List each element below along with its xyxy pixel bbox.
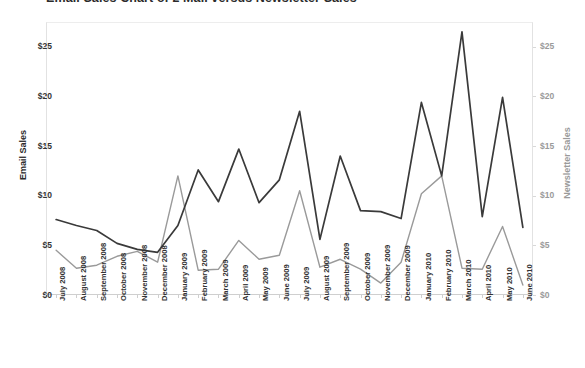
y-axis-left-tick-label: $5 — [12, 241, 52, 250]
y-axis-left-tick-mark — [43, 196, 46, 197]
y-axis-left-tick-mark — [43, 47, 46, 48]
x-axis-tick-mark — [523, 295, 524, 298]
x-axis-tick-label: April 2010 — [485, 265, 493, 301]
x-axis-tick-label: September 2009 — [343, 243, 351, 301]
x-axis-tick-label: December 2008 — [161, 245, 169, 301]
y-axis-right-tick-mark — [533, 146, 536, 147]
y-axis-left-tick-label: $20 — [12, 92, 52, 101]
x-axis-tick-label: January 2009 — [181, 253, 189, 301]
x-axis-tick-mark — [320, 295, 321, 298]
x-axis-tick-mark — [381, 295, 382, 298]
x-axis-tick-label: June 2009 — [283, 264, 291, 301]
y-axis-left-tick-mark — [43, 295, 46, 296]
y-axis-right-tick-mark — [533, 96, 536, 97]
x-axis-tick-mark — [503, 295, 504, 298]
y-axis-right-tick-label: $20 — [540, 92, 580, 101]
y-axis-left-tick-label: $0 — [12, 291, 52, 300]
y-axis-right-tick-label: $15 — [540, 142, 580, 151]
x-axis-tick-mark — [56, 295, 57, 298]
x-axis-tick-mark — [178, 295, 179, 298]
x-axis-tick-mark — [218, 295, 219, 298]
x-axis-tick-mark — [300, 295, 301, 298]
x-axis-tick-mark — [361, 295, 362, 298]
x-axis-tick-label: November 2008 — [141, 245, 149, 301]
x-axis-tick-label: December 2009 — [404, 245, 412, 301]
x-axis-tick-label: July 2008 — [59, 267, 67, 301]
x-axis-tick-label: February 2009 — [201, 250, 209, 302]
x-axis-tick-mark — [401, 295, 402, 298]
chart-title: Email Sales Chart of 2 Mail versus Newsl… — [46, 0, 566, 3]
x-axis-tick-mark — [239, 295, 240, 298]
x-axis-tick-mark — [421, 295, 422, 298]
y-axis-right-tick-label: $5 — [540, 241, 580, 250]
x-axis-tick-mark — [97, 295, 98, 298]
y-axis-right-tick-label: $0 — [540, 291, 580, 300]
x-axis-tick-label: February 2010 — [445, 250, 453, 302]
x-axis-tick-mark — [158, 295, 159, 298]
x-axis-tick-mark — [279, 295, 280, 298]
x-axis-tick-label: September 2008 — [100, 243, 108, 301]
x-axis-tick-label: August 2009 — [323, 256, 331, 301]
x-axis-tick-mark — [259, 295, 260, 298]
x-axis-tick-label: November 2009 — [384, 245, 392, 301]
y-axis-right-tick-mark — [533, 245, 536, 246]
chart-container: Email Sales Chart of 2 Mail versus Newsl… — [0, 0, 585, 368]
x-axis-tick-mark — [137, 295, 138, 298]
x-axis-tick-mark — [462, 295, 463, 298]
x-axis-tick-label: June 2010 — [526, 264, 534, 301]
x-axis-tick-label: March 2009 — [222, 260, 230, 301]
y-axis-right-tick-mark — [533, 47, 536, 48]
x-axis-tick-label: April 2009 — [242, 265, 250, 301]
x-axis-tick-mark — [76, 295, 77, 298]
x-axis-tick-label: August 2008 — [80, 256, 88, 301]
x-axis-tick-label: May 2009 — [262, 267, 270, 301]
x-axis-tick-mark — [442, 295, 443, 298]
y-axis-left-tick-mark — [43, 245, 46, 246]
y-axis-left-tick-mark — [43, 96, 46, 97]
y-axis-left-tick-mark — [43, 146, 46, 147]
x-axis-tick-label: October 2009 — [364, 253, 372, 301]
x-axis-tick-label: October 2008 — [120, 253, 128, 301]
x-axis-tick-label: March 2010 — [465, 260, 473, 301]
y-axis-right-tick-label: $25 — [540, 42, 580, 51]
y-axis-left-title: Email Sales — [18, 115, 28, 195]
y-axis-right-tick-label: $10 — [540, 191, 580, 200]
line-email-sales — [56, 32, 523, 252]
x-axis-tick-label: July 2009 — [303, 267, 311, 301]
y-axis-right-tick-mark — [533, 196, 536, 197]
x-axis-tick-label: May 2010 — [506, 267, 514, 301]
y-axis-left-tick-label: $10 — [12, 191, 52, 200]
x-axis-tick-mark — [117, 295, 118, 298]
y-axis-left-tick-label: $15 — [12, 142, 52, 151]
y-axis-left-tick-label: $25 — [12, 42, 52, 51]
x-axis-tick-label: January 2010 — [425, 253, 433, 301]
